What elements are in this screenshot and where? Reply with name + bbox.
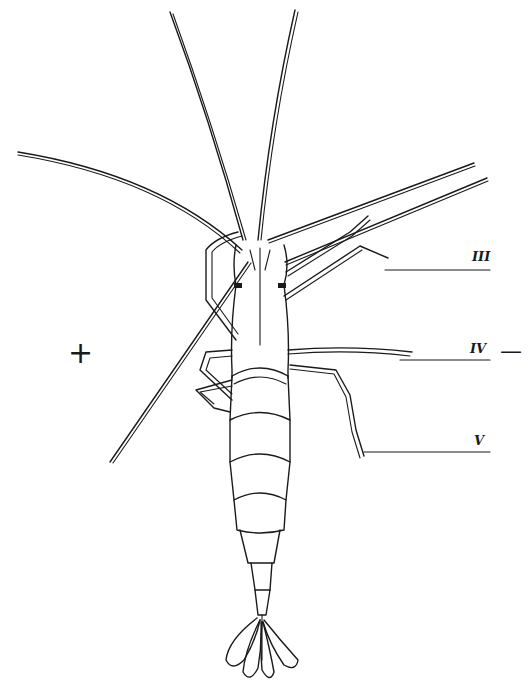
label-leg-iv: IV <box>470 342 486 355</box>
carapace <box>232 245 289 378</box>
legs-right <box>284 216 412 458</box>
tail-fan <box>226 615 298 678</box>
legs-left <box>196 232 242 412</box>
shrimp-figure: III IV V + — <box>0 0 531 689</box>
antenna-right-lower <box>285 178 488 265</box>
label-leg-iii: III <box>472 250 490 263</box>
antenna-left <box>18 152 242 253</box>
label-leg-v: V <box>474 434 484 447</box>
abdomen <box>230 368 290 615</box>
antennule-right <box>258 10 298 240</box>
negative-pole-sign: — <box>500 340 522 362</box>
positive-pole-sign: + <box>68 338 93 368</box>
antenna-right-upper <box>268 163 475 243</box>
leader-lines <box>364 270 490 452</box>
